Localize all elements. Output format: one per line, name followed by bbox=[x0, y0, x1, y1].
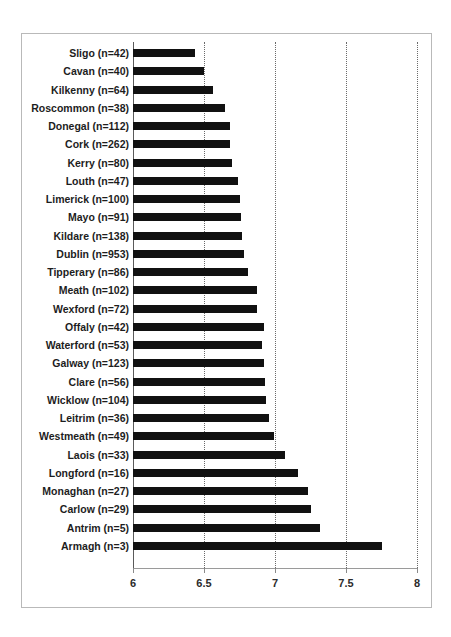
bar bbox=[133, 505, 311, 513]
bar bbox=[133, 86, 213, 94]
category-label: Limerick (n=100) bbox=[0, 190, 129, 208]
bar bbox=[133, 323, 264, 331]
category-label: Tipperary (n=86) bbox=[0, 263, 129, 281]
bar bbox=[133, 232, 242, 240]
bar-row: Clare (n=56) bbox=[0, 373, 451, 391]
category-label: Cork (n=262) bbox=[0, 135, 129, 153]
bar bbox=[133, 359, 264, 367]
category-label: Wicklow (n=104) bbox=[0, 391, 129, 409]
x-axis-tick-label: 8 bbox=[414, 577, 420, 589]
category-label: Wexford (n=72) bbox=[0, 300, 129, 318]
bar bbox=[133, 268, 248, 276]
category-label: Leitrim (n=36) bbox=[0, 409, 129, 427]
category-label: Roscommon (n=38) bbox=[0, 99, 129, 117]
bar-row: Cavan (n=40) bbox=[0, 62, 451, 80]
bar-row: Cork (n=262) bbox=[0, 135, 451, 153]
bar-row: Louth (n=47) bbox=[0, 172, 451, 190]
tick-mark bbox=[275, 568, 276, 573]
bar-row: Dublin (n=953) bbox=[0, 245, 451, 263]
bar bbox=[133, 213, 241, 221]
scan-bleed-text bbox=[60, 0, 400, 12]
category-label: Cavan (n=40) bbox=[0, 62, 129, 80]
bar-row: Waterford (n=53) bbox=[0, 336, 451, 354]
bar-row: Leitrim (n=36) bbox=[0, 409, 451, 427]
tick-mark bbox=[204, 568, 205, 573]
bar-row: Laois (n=33) bbox=[0, 446, 451, 464]
bar-row: Offaly (n=42) bbox=[0, 318, 451, 336]
x-axis-tick-label: 7.5 bbox=[338, 577, 353, 589]
bar-row: Carlow (n=29) bbox=[0, 500, 451, 518]
bar-row: Tipperary (n=86) bbox=[0, 263, 451, 281]
category-label: Longford (n=16) bbox=[0, 464, 129, 482]
bar-row: Kilkenny (n=64) bbox=[0, 81, 451, 99]
bar bbox=[133, 487, 308, 495]
bar-row: Limerick (n=100) bbox=[0, 190, 451, 208]
bar-row: Wicklow (n=104) bbox=[0, 391, 451, 409]
bar bbox=[133, 524, 320, 532]
bar bbox=[133, 140, 230, 148]
category-label: Laois (n=33) bbox=[0, 446, 129, 464]
bar bbox=[133, 49, 195, 57]
bar bbox=[133, 159, 232, 167]
category-label: Dublin (n=953) bbox=[0, 245, 129, 263]
bar bbox=[133, 542, 382, 550]
bar-row: Wexford (n=72) bbox=[0, 300, 451, 318]
category-label: Armagh (n=3) bbox=[0, 537, 129, 555]
bar bbox=[133, 104, 225, 112]
category-label: Sligo (n=42) bbox=[0, 44, 129, 62]
bar-row: Armagh (n=3) bbox=[0, 537, 451, 555]
bar bbox=[133, 250, 244, 258]
bar-row: Kildare (n=138) bbox=[0, 227, 451, 245]
category-label: Carlow (n=29) bbox=[0, 500, 129, 518]
bar bbox=[133, 396, 266, 404]
category-label: Kildare (n=138) bbox=[0, 227, 129, 245]
bar-row: Donegal (n=112) bbox=[0, 117, 451, 135]
category-label: Offaly (n=42) bbox=[0, 318, 129, 336]
bar bbox=[133, 432, 274, 440]
tick-mark bbox=[133, 568, 134, 573]
bar bbox=[133, 177, 238, 185]
category-label: Waterford (n=53) bbox=[0, 336, 129, 354]
category-label: Clare (n=56) bbox=[0, 373, 129, 391]
category-label: Galway (n=123) bbox=[0, 354, 129, 372]
bar-row: Mayo (n=91) bbox=[0, 208, 451, 226]
bar bbox=[133, 341, 262, 349]
category-label: Mayo (n=91) bbox=[0, 208, 129, 226]
bar-row: Monaghan (n=27) bbox=[0, 482, 451, 500]
category-label: Kerry (n=80) bbox=[0, 154, 129, 172]
x-axis-tick-label: 7 bbox=[272, 577, 278, 589]
bar-row: Meath (n=102) bbox=[0, 281, 451, 299]
chart-page: 66.577.58 Sligo (n=42)Cavan (n=40)Kilken… bbox=[0, 0, 451, 637]
bar-row: Sligo (n=42) bbox=[0, 44, 451, 62]
category-label: Westmeath (n=49) bbox=[0, 427, 129, 445]
category-label: Louth (n=47) bbox=[0, 172, 129, 190]
bar bbox=[133, 122, 230, 130]
tick-mark bbox=[346, 568, 347, 573]
x-axis-tick-label: 6.5 bbox=[196, 577, 211, 589]
category-label: Kilkenny (n=64) bbox=[0, 81, 129, 99]
bar bbox=[133, 67, 204, 75]
bar bbox=[133, 451, 285, 459]
bar bbox=[133, 378, 265, 386]
bar-row: Roscommon (n=38) bbox=[0, 99, 451, 117]
x-axis-tick-label: 6 bbox=[130, 577, 136, 589]
tick-mark bbox=[417, 568, 418, 573]
bar bbox=[133, 469, 298, 477]
bar-row: Antrim (n=5) bbox=[0, 519, 451, 537]
category-label: Donegal (n=112) bbox=[0, 117, 129, 135]
bar-row: Longford (n=16) bbox=[0, 464, 451, 482]
bar bbox=[133, 305, 257, 313]
bar bbox=[133, 195, 240, 203]
bar bbox=[133, 414, 269, 422]
bar-row: Galway (n=123) bbox=[0, 354, 451, 372]
bar-row: Westmeath (n=49) bbox=[0, 427, 451, 445]
category-label: Meath (n=102) bbox=[0, 281, 129, 299]
category-label: Monaghan (n=27) bbox=[0, 482, 129, 500]
category-label: Antrim (n=5) bbox=[0, 519, 129, 537]
bar-row: Kerry (n=80) bbox=[0, 154, 451, 172]
bar bbox=[133, 286, 257, 294]
